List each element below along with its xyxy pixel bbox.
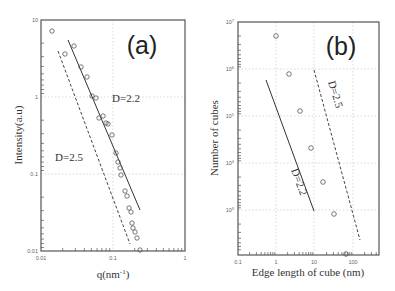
data-points	[50, 29, 142, 252]
x-tick-label: 100	[348, 259, 357, 265]
x-tick-label: 1	[274, 259, 277, 265]
y-tick-label: 1	[35, 94, 38, 100]
y-axis-label: Number of cubes	[208, 100, 220, 176]
chart-b: 0.1 1 10 100 107 106 105 104 103 (b) D=2…	[208, 18, 379, 280]
y-tick-label: 103	[226, 206, 235, 214]
annotation-d25: D=2.5	[55, 151, 83, 163]
x-tick-label: 0.1	[234, 259, 242, 265]
data-points	[274, 34, 349, 257]
y-tick-label: 0.1	[30, 171, 38, 177]
x-axis-label: Edge length of cube (nm)	[252, 266, 365, 279]
y-tick-label: 105	[226, 112, 235, 120]
y-tick-label: 10	[32, 17, 38, 23]
panel-label-b: (b)	[326, 32, 357, 60]
x-tick-label: 0.1	[109, 255, 117, 261]
y-tick-label: 0.01	[27, 248, 38, 254]
annotation-d22: D=2.2	[112, 92, 140, 104]
y-tick-label: 107	[226, 18, 235, 26]
x-axis-label: q(nm-1)	[97, 268, 130, 281]
chart-a: 0.01 0.1 1 10 1 0.1 0.01 (a) D=2.2	[12, 17, 187, 281]
annotation-d25: D=2.5	[326, 79, 346, 110]
y-tick-label: 106	[226, 65, 235, 73]
fit-line-d25	[58, 51, 130, 244]
y-axis-label: Intensity(a.u)	[12, 105, 25, 164]
x-tick-label: 10	[311, 259, 317, 265]
y-tick-label: 104	[226, 159, 235, 167]
figure: 0.01 0.1 1 10 1 0.1 0.01 (a) D=2.2	[0, 0, 395, 291]
fit-line-d22	[68, 40, 140, 210]
panel-label-a: (a)	[127, 31, 158, 59]
x-tick-label: 0.01	[36, 255, 47, 261]
annotation-d22: D=2.2	[289, 167, 310, 197]
plot-frame	[238, 22, 379, 255]
x-tick-label: 1	[183, 255, 186, 261]
